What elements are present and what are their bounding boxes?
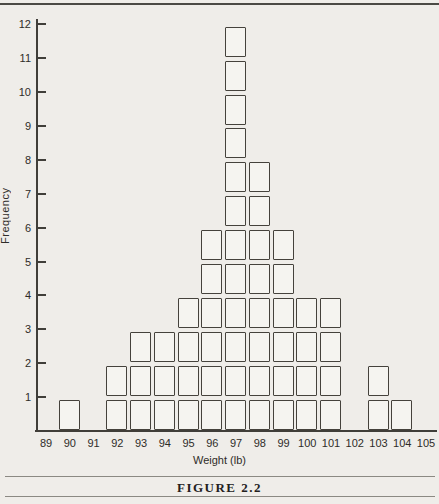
frequency-block: [178, 366, 199, 396]
frequency-block: [320, 366, 341, 396]
frequency-block: [296, 298, 317, 328]
y-tick-mark: [38, 396, 46, 398]
y-tick-label: 1: [7, 391, 31, 403]
y-tick-label: 12: [7, 18, 31, 30]
frequency-block: [249, 162, 270, 192]
frequency-block: [178, 298, 199, 328]
frequency-block: [296, 400, 317, 430]
y-tick-mark: [38, 227, 46, 229]
frequency-block: [273, 400, 294, 430]
y-tick-label: 8: [7, 154, 31, 166]
y-tick-label: 4: [7, 289, 31, 301]
caption-bottom-rule: [5, 496, 435, 497]
frequency-block: [249, 230, 270, 260]
y-tick-mark: [38, 91, 46, 93]
frequency-block: [154, 332, 175, 362]
caption-top-rule: [5, 476, 435, 477]
frequency-block: [225, 196, 246, 226]
y-tick-mark: [38, 261, 46, 263]
frequency-block: [106, 366, 127, 396]
y-tick-mark: [38, 294, 46, 296]
y-tick-label: 2: [7, 357, 31, 369]
frequency-block: [273, 264, 294, 294]
frequency-block: [225, 332, 246, 362]
frequency-block: [201, 400, 222, 430]
frequency-block: [249, 196, 270, 226]
frequency-histogram: Frequency 123456789101112 89909192939495…: [0, 0, 439, 470]
frequency-block: [201, 230, 222, 260]
y-tick-mark: [38, 328, 46, 330]
frequency-block: [249, 298, 270, 328]
frequency-block: [225, 264, 246, 294]
frequency-block: [201, 366, 222, 396]
frequency-block: [225, 366, 246, 396]
y-tick-mark: [38, 57, 46, 59]
y-tick-mark: [38, 362, 46, 364]
frequency-block: [320, 400, 341, 430]
frequency-block: [201, 332, 222, 362]
y-tick-mark: [38, 159, 46, 161]
frequency-block: [225, 298, 246, 328]
y-tick-label: 3: [7, 323, 31, 335]
frequency-block: [249, 400, 270, 430]
frequency-block: [273, 366, 294, 396]
frequency-block: [225, 61, 246, 91]
frequency-block: [225, 27, 246, 57]
y-tick-mark: [38, 125, 46, 127]
y-tick-label: 5: [7, 256, 31, 268]
frequency-block: [368, 400, 389, 430]
frequency-block: [273, 298, 294, 328]
frequency-block: [130, 332, 151, 362]
x-axis-title: Weight (lb): [0, 454, 439, 466]
frequency-block: [249, 332, 270, 362]
frequency-block: [59, 400, 80, 430]
frequency-block: [249, 264, 270, 294]
textbook-figure-page: Frequency 123456789101112 89909192939495…: [0, 0, 439, 504]
y-tick-mark: [38, 193, 46, 195]
frequency-block: [201, 264, 222, 294]
y-tick-label: 9: [7, 120, 31, 132]
frequency-block: [320, 332, 341, 362]
frequency-block: [130, 366, 151, 396]
frequency-block: [391, 400, 412, 430]
frequency-block: [273, 230, 294, 260]
frequency-block: [225, 400, 246, 430]
frequency-block: [225, 230, 246, 260]
frequency-block: [154, 366, 175, 396]
frequency-block: [178, 400, 199, 430]
frequency-block: [201, 298, 222, 328]
frequency-block: [130, 400, 151, 430]
figure-caption: FIGURE 2.2: [0, 480, 439, 496]
frequency-block: [225, 128, 246, 158]
x-axis-line: [35, 430, 437, 432]
frequency-block: [296, 366, 317, 396]
frequency-block: [106, 400, 127, 430]
frequency-block: [368, 366, 389, 396]
frequency-block: [320, 298, 341, 328]
frequency-block: [154, 400, 175, 430]
frequency-block: [249, 366, 270, 396]
frequency-block: [178, 332, 199, 362]
x-tick-label: 105: [411, 437, 439, 449]
y-tick-label: 7: [7, 188, 31, 200]
frequency-block: [273, 332, 294, 362]
frequency-block: [225, 162, 246, 192]
y-tick-mark: [38, 23, 46, 25]
y-axis-line: [36, 19, 38, 432]
frequency-block: [225, 95, 246, 125]
y-tick-label: 6: [7, 222, 31, 234]
y-tick-label: 10: [7, 86, 31, 98]
frequency-block: [296, 332, 317, 362]
y-tick-label: 11: [7, 52, 31, 64]
